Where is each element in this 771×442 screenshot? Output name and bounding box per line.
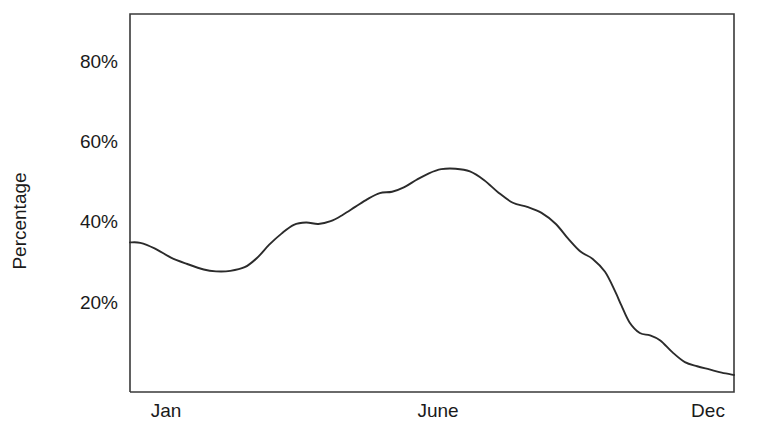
axis-frame [130, 14, 734, 392]
plot-area [0, 0, 771, 442]
data-series-line-percentage [130, 168, 734, 374]
chart-container: Percentage 80% 60% 40% 20% Jan June Dec [0, 0, 771, 442]
